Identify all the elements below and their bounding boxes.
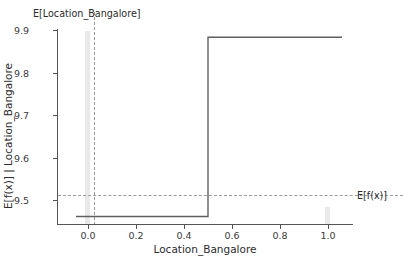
x-tick-label-0-8: 0.8 xyxy=(272,230,287,241)
x-tick-label-1-0: 1.0 xyxy=(320,230,335,241)
y-tick-mark xyxy=(53,200,57,201)
y-tick-mark xyxy=(53,115,57,116)
y-axis-label-text: E[f(x)] | Location_Bangalore xyxy=(2,62,14,208)
expected-value-annotation-label: E[f(x)] xyxy=(357,190,387,201)
step-polyline xyxy=(76,37,342,216)
feature-mean-annotation-label: E[Location_Bangalore] xyxy=(33,8,141,19)
y-axis-label: E[f(x)] | Location_Bangalore xyxy=(0,0,17,271)
x-tick-mark xyxy=(136,225,137,229)
x-tick-label-0-6: 0.6 xyxy=(224,230,239,241)
partial-dependence-chart: 9.5 9.6 9.7 9.8 9.9 0.0 0.2 0.4 0.6 0.8 … xyxy=(0,0,403,271)
y-tick-mark xyxy=(53,158,57,159)
x-tick-label-0-4: 0.4 xyxy=(176,230,191,241)
x-tick-mark xyxy=(88,225,89,229)
step-curve xyxy=(0,0,403,271)
x-tick-mark xyxy=(328,225,329,229)
x-axis-spine xyxy=(57,224,353,225)
y-tick-mark xyxy=(53,30,57,31)
x-tick-mark xyxy=(280,225,281,229)
x-tick-mark xyxy=(232,225,233,229)
y-tick-mark xyxy=(53,73,57,74)
x-tick-label-0-2: 0.2 xyxy=(128,230,143,241)
x-tick-mark xyxy=(184,225,185,229)
y-axis-spine xyxy=(57,29,58,225)
x-tick-label-0-0: 0.0 xyxy=(80,230,95,241)
x-axis-label: Location_Bangalore xyxy=(58,243,352,255)
